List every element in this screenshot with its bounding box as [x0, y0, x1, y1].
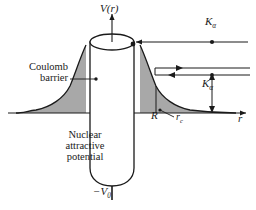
kinetic-energy-label-top: Kα — [205, 16, 216, 31]
nuclear-potential-label-line2: attractive — [58, 140, 112, 151]
potential-energy-diagram: V(r) Coulomb barrier Nuclear attractive … — [0, 0, 256, 210]
v-axis-label: V(r) — [100, 3, 118, 15]
coulomb-barrier-label: Coulomb barrier — [6, 61, 68, 83]
kinetic-energy-label-bottom: Kα — [202, 78, 213, 93]
coulomb-barrier-fill-right — [140, 45, 236, 113]
well-depth-subscript: 0 — [107, 192, 111, 200]
well-depth-label: −V0 — [93, 186, 111, 201]
kinetic-energy-top-subscript: α — [212, 22, 216, 30]
nuclear-potential-label-line3: potential — [58, 151, 112, 162]
band-right-dot — [210, 73, 214, 77]
turning-radius-dot — [158, 108, 161, 111]
coulomb-barrier-leader-dot — [94, 77, 97, 80]
alpha-particle-dot-top — [210, 40, 214, 44]
kinetic-energy-bottom-subscript: α — [209, 84, 213, 92]
nuclear-potential-label-line1: Nuclear — [58, 129, 112, 140]
alpha-arrow-outgoing — [176, 65, 183, 71]
diagram-canvas — [0, 0, 256, 210]
barrier-top-contact-dot — [131, 42, 136, 47]
coulomb-barrier-label-line2: barrier — [6, 72, 68, 83]
coulomb-barrier-label-line1: Coulomb — [6, 61, 68, 72]
nuclear-well-cylinder — [90, 42, 134, 186]
well-depth-text: −V — [93, 185, 107, 197]
alpha-arrow-incoming — [168, 72, 175, 78]
nuclear-radius-label: R — [151, 110, 158, 122]
v-axis-label-text: V(r) — [100, 2, 118, 14]
nuclear-potential-label: Nuclear attractive potential — [58, 129, 112, 162]
turning-radius-label: rc — [176, 112, 183, 125]
r-axis-label: r — [238, 113, 242, 125]
turning-radius-subscript: c — [180, 117, 183, 124]
